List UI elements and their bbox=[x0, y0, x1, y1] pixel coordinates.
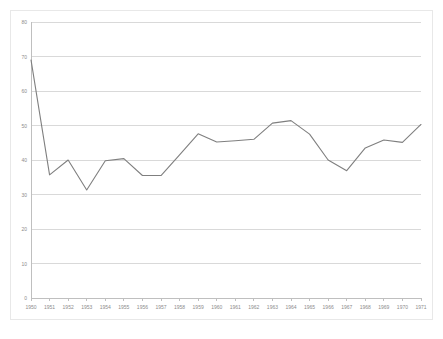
x-tick-label-1964: 1964 bbox=[285, 304, 296, 310]
data-series-line bbox=[31, 60, 421, 190]
x-tick-label-1957: 1957 bbox=[155, 304, 166, 310]
chart-frame: 01020304050607080 1950195119521953195419… bbox=[10, 10, 433, 320]
line-chart: 01020304050607080 1950195119521953195419… bbox=[11, 11, 432, 319]
gridlines bbox=[31, 22, 421, 298]
x-tick-label-1950: 1950 bbox=[25, 304, 36, 310]
y-axis-tick-labels: 01020304050607080 bbox=[21, 19, 27, 301]
y-tick-label-20: 20 bbox=[21, 226, 27, 232]
y-tick-label-60: 60 bbox=[21, 88, 27, 94]
y-tick-label-0: 0 bbox=[24, 295, 27, 301]
chart-figure: 01020304050607080 1950195119521953195419… bbox=[0, 0, 443, 339]
y-tick-label-30: 30 bbox=[21, 192, 27, 198]
x-tick-label-1962: 1962 bbox=[248, 304, 259, 310]
x-tick-label-1961: 1961 bbox=[230, 304, 241, 310]
x-tick-label-1952: 1952 bbox=[63, 304, 74, 310]
x-tick-label-1956: 1956 bbox=[137, 304, 148, 310]
x-tick-label-1971: 1971 bbox=[415, 304, 426, 310]
x-tick-label-1968: 1968 bbox=[360, 304, 371, 310]
x-tick-label-1969: 1969 bbox=[378, 304, 389, 310]
y-tick-label-40: 40 bbox=[21, 157, 27, 163]
x-tick-label-1970: 1970 bbox=[397, 304, 408, 310]
x-axis-tick-labels: 1950195119521953195419551956195719581959… bbox=[25, 304, 426, 310]
x-tick-label-1965: 1965 bbox=[304, 304, 315, 310]
y-tick-label-80: 80 bbox=[21, 19, 27, 25]
x-tick-label-1967: 1967 bbox=[341, 304, 352, 310]
x-tick-label-1959: 1959 bbox=[193, 304, 204, 310]
x-tick-label-1960: 1960 bbox=[211, 304, 222, 310]
x-tick-label-1951: 1951 bbox=[44, 304, 55, 310]
y-tick-label-70: 70 bbox=[21, 54, 27, 60]
x-tick-label-1963: 1963 bbox=[267, 304, 278, 310]
x-tick-label-1954: 1954 bbox=[100, 304, 111, 310]
x-tick-label-1953: 1953 bbox=[81, 304, 92, 310]
x-tick-label-1958: 1958 bbox=[174, 304, 185, 310]
x-tick-label-1966: 1966 bbox=[323, 304, 334, 310]
x-tick-label-1955: 1955 bbox=[118, 304, 129, 310]
y-tick-label-50: 50 bbox=[21, 123, 27, 129]
y-tick-label-10: 10 bbox=[21, 261, 27, 267]
